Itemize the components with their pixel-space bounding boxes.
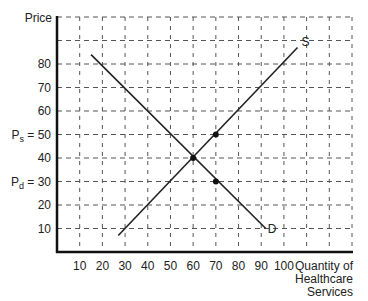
x-axis-title: Services xyxy=(307,285,353,299)
x-axis-title: Quantity of xyxy=(295,259,354,273)
x-tick-label: 40 xyxy=(141,259,155,273)
x-tick-label: 10 xyxy=(73,259,87,273)
y-tick-label: 20 xyxy=(38,198,52,212)
x-tick-label: 60 xyxy=(186,259,200,273)
demand-curve xyxy=(91,55,266,229)
x-tick-label: 50 xyxy=(164,259,178,273)
labels: Price807060Ps = 5040Pd = 302010102030405… xyxy=(11,11,354,299)
supply-price-point-dot xyxy=(213,132,219,138)
y-tick-label: Ps = 50 xyxy=(11,128,51,144)
curves xyxy=(91,48,298,236)
x-tick-label: 20 xyxy=(96,259,110,273)
equilibrium-dot xyxy=(190,155,196,161)
supply-curve xyxy=(118,48,297,236)
y-axis-title: Price xyxy=(25,11,53,25)
x-tick-label: 90 xyxy=(255,259,269,273)
supply-demand-chart: Price807060Ps = 5040Pd = 302010102030405… xyxy=(0,0,368,301)
y-tick-label: 40 xyxy=(38,151,52,165)
x-tick-label: 100 xyxy=(274,259,294,273)
y-tick-label: 10 xyxy=(38,222,52,236)
y-tick-label: 60 xyxy=(38,104,52,118)
demand-price-point-dot xyxy=(213,179,219,185)
grid xyxy=(57,17,352,252)
x-axis-title: Healthcare xyxy=(295,272,353,286)
y-tick-label: Pd = 30 xyxy=(11,175,51,191)
x-tick-label: 70 xyxy=(209,259,223,273)
y-tick-label: 70 xyxy=(38,81,52,95)
y-tick-label: 80 xyxy=(38,57,52,71)
demand-label: D xyxy=(268,222,277,236)
x-tick-label: 30 xyxy=(118,259,132,273)
supply-label: S xyxy=(302,35,310,49)
x-tick-label: 80 xyxy=(232,259,246,273)
